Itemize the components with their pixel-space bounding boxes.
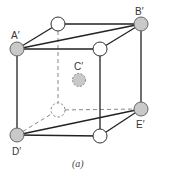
atom-bottom-back-left bbox=[51, 103, 65, 117]
label-c: C′ bbox=[74, 61, 83, 72]
label-d: D′ bbox=[12, 146, 21, 157]
atom-d bbox=[10, 128, 24, 142]
atom-a bbox=[10, 42, 24, 56]
label-e: E′ bbox=[136, 119, 145, 130]
label-b: B′ bbox=[135, 6, 144, 17]
edge-bottom-front bbox=[17, 135, 100, 136]
atom-top-front-right bbox=[93, 42, 107, 56]
atom-top-back-left bbox=[51, 17, 65, 31]
edge-top-diagonal-a-b bbox=[17, 24, 141, 49]
unit-cell-diagram: A′ B′ C′ E′ D′ (a) bbox=[0, 0, 179, 176]
atom-e bbox=[134, 102, 148, 116]
atom-c bbox=[73, 74, 86, 87]
atom-bottom-front-right bbox=[93, 129, 107, 143]
label-a: A′ bbox=[11, 30, 20, 41]
atom-b bbox=[134, 17, 148, 31]
figure-caption: (a) bbox=[72, 158, 84, 170]
